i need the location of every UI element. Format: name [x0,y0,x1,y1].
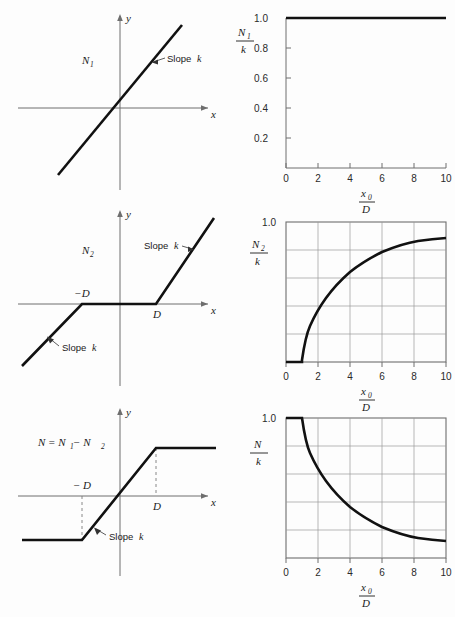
n-saturation-curve [22,448,216,540]
slope-label-lower-k: k [92,342,97,353]
y-axis-label-numerator: N [253,438,262,450]
n1-label-subscript: 1 [90,60,94,69]
breakpoint-label-positive-d: D [152,500,161,512]
y-tick-label-2: 0.4 [254,103,268,114]
figure-row-1: x y N 1 Slope k N 1 k [0,0,455,200]
x-tick-label-0: 0 [283,173,289,184]
n-label: N = N [37,436,66,448]
plot-frame [286,222,446,362]
x-tick-label-8: 8 [411,567,417,578]
x-tick-label-0: 0 [283,567,289,578]
n2-label: N [81,244,90,256]
y-tick-label-1: 0.2 [254,133,268,144]
y-axis-label: y [125,208,131,220]
x-axis-arrowhead [201,301,208,307]
n-label-minus-n: − N [73,436,91,448]
y-axis-label: y [125,12,131,24]
grid-vertical [318,222,414,362]
x-axis-label-numerator-subscript: 0 [368,587,372,596]
y-axis-label-denominator: k [256,455,262,467]
plot-n2-over-k: N 2 k [228,196,455,411]
y-axis-arrowhead [117,210,123,217]
breakpoint-label-negative-d: −D [74,287,89,299]
x-tick-label-6: 6 [379,371,385,382]
y-axis-arrowhead [117,408,123,415]
panel-n-saturation-characteristic: x y N = N 1 − N 2 − D D Slope k [0,396,228,596]
figure-row-3: x y N = N 1 − N 2 − D D Slope k [0,396,455,596]
x-tick-label-2: 2 [315,567,321,578]
x-axis-label-denominator: D [361,597,370,609]
plot-n-over-k: N k 1.0 [228,396,455,611]
y-axis-label-numerator-subscript: 2 [261,244,265,253]
x-tick-label-10: 10 [440,567,452,578]
slope-label-lower: Slope [62,342,86,353]
x-tick-group [286,362,446,367]
x-axis-arrowhead [201,105,208,111]
x-axis-label: x [210,304,216,316]
x-tick-group [286,558,446,563]
grid-horizontal [286,250,446,334]
x-tick-label-8: 8 [411,371,417,382]
panel-n2-characteristic: x y N 2 −D D Slope k Slope k [0,196,228,396]
y-tick-label-1: 1.0 [262,217,276,228]
slope-label: Slope [167,53,191,64]
breakpoint-label-positive-d: D [152,308,161,320]
x-axis-label: x [210,108,216,120]
slope-label: Slope [109,531,133,542]
n-label-subscript-2: 2 [101,442,105,451]
slope-leader-arrowhead [94,528,101,536]
y-tick-label-5: 1.0 [254,13,268,24]
x-axis-arrowhead [201,493,208,499]
y-axis-label-denominator: k [241,43,247,55]
x-tick-label-4: 4 [347,567,353,578]
x-tick-label-2: 2 [315,371,321,382]
plot-n1-over-k: N 1 k 1.0 0.8 0.6 0.4 0. [228,0,455,215]
y-axis-arrowhead [117,14,123,21]
plot-frame [286,418,446,558]
n2-deadzone-curve [22,218,214,366]
x-tick-group [286,163,446,168]
n2-label-subscript: 2 [90,250,94,259]
x-tick-label-6: 6 [379,173,385,184]
x-tick-label-4: 4 [347,371,353,382]
y-tick-label-1: 1.0 [262,413,276,424]
y-tick-label-4: 0.8 [254,43,268,54]
x-axis-label-numerator: x [360,581,366,593]
breakpoint-label-negative-d: − D [73,479,91,491]
data-curve-n-over-k [286,418,446,541]
panel-n1-characteristic: x y N 1 Slope k [0,0,228,200]
y-axis-label-numerator-subscript: 1 [247,32,251,41]
x-axis-label: x [210,496,216,508]
data-curve-n2-over-k [286,238,446,362]
x-tick-label-10: 10 [440,173,452,184]
y-tick-label-3: 0.6 [254,73,268,84]
figure-describing-functions: x y N 1 Slope k N 1 k [0,0,455,617]
figure-row-2: x y N 2 −D D Slope k Slope k [0,196,455,396]
y-axis-label: y [125,406,131,418]
y-axis-label-denominator: k [255,255,261,267]
x-tick-label-4: 4 [347,173,353,184]
n1-label: N [81,54,90,66]
slope-label-upper-k: k [174,240,179,251]
y-axis-label-numerator: N [251,238,260,250]
slope-label-upper: Slope [144,240,168,251]
x-tick-label-0: 0 [283,371,289,382]
x-tick-label-2: 2 [315,173,321,184]
y-tick-group [286,18,291,138]
x-tick-label-8: 8 [411,173,417,184]
slope-label-k: k [139,531,144,542]
slope-label-k: k [197,53,202,64]
y-axis-label-numerator: N [237,26,246,38]
x-tick-label-6: 6 [379,567,385,578]
x-tick-label-10: 10 [440,371,452,382]
